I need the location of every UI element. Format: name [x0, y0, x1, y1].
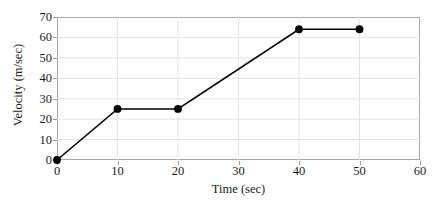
- chart-svg-layer: [0, 0, 447, 204]
- data-markers: [53, 25, 363, 164]
- data-line: [57, 29, 360, 160]
- data-point-marker: [356, 25, 364, 33]
- data-point-marker: [295, 25, 303, 33]
- velocity-time-chart: Velocity (m/sec) Time (sec) 70 60 50 40 …: [0, 0, 447, 204]
- vertical-gridlines: [118, 17, 360, 160]
- data-point-marker: [174, 105, 182, 113]
- data-point-marker: [53, 156, 61, 164]
- data-point-marker: [114, 105, 122, 113]
